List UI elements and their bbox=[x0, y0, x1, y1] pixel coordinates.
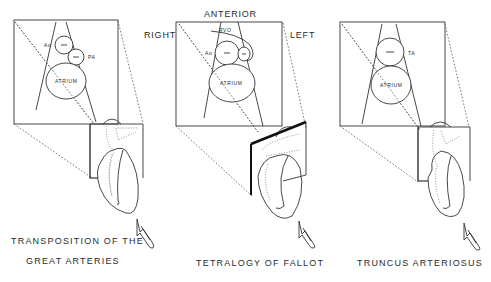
beam-line-left bbox=[36, 22, 56, 110]
panel-transposition: Ao PA ATRIUM TRANSPOSITION OF THE GREAT … bbox=[11, 20, 154, 266]
caption-line-1: TRUNCUS ARTERIOSUS bbox=[357, 258, 483, 268]
view-arrow-icon bbox=[299, 221, 315, 248]
panel-truncus: TA ATRIUM TRUNCUS ARTERIOSUS bbox=[340, 22, 483, 268]
heart-frame bbox=[251, 122, 306, 195]
label-atrium: ATRIUM bbox=[220, 80, 242, 86]
label-pa: PA bbox=[88, 54, 96, 60]
label-ta: TA bbox=[408, 50, 415, 56]
projection-line bbox=[118, 21, 143, 123]
heart-frame bbox=[90, 119, 143, 196]
caption-line-2: GREAT ARTERIES bbox=[26, 256, 120, 266]
projection-line bbox=[176, 126, 252, 196]
panel-tetralogy: ANTERIOR RIGHT LEFT RVO Ao ATRIUM bbox=[144, 9, 324, 268]
label-rvo: RVO bbox=[219, 27, 232, 33]
projection-line bbox=[445, 24, 469, 127]
caption-line-1: TRANSPOSITION OF THE bbox=[11, 236, 144, 246]
view-arrow-icon bbox=[464, 223, 480, 250]
projection-line bbox=[340, 126, 418, 182]
label-anterior: ANTERIOR bbox=[204, 9, 257, 19]
label-atrium: ATRIUM bbox=[380, 82, 402, 88]
projection-line bbox=[14, 124, 92, 178]
label-left: LEFT bbox=[290, 30, 315, 40]
diagram-canvas: Ao PA ATRIUM TRANSPOSITION OF THE GREAT … bbox=[0, 0, 491, 282]
caption-line-1: TETRALOGY OF FALLOT bbox=[196, 258, 324, 268]
label-ao: Ao bbox=[44, 42, 51, 48]
label-right: RIGHT bbox=[144, 30, 176, 40]
label-ao: Ao bbox=[205, 50, 212, 56]
label-atrium: ATRIUM bbox=[55, 78, 77, 84]
heart-outline bbox=[428, 151, 464, 217]
